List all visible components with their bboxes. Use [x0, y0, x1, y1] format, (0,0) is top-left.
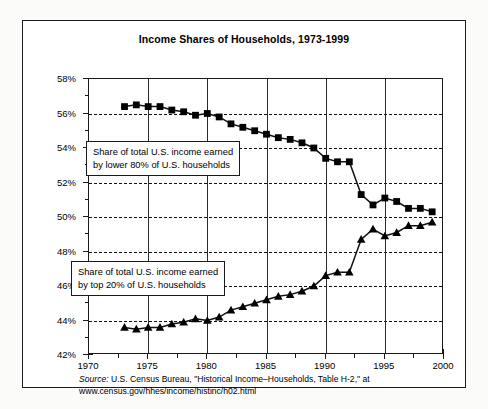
source-note-line2: www.census.gov/hhes/income/histinc/h02.h… — [79, 385, 459, 397]
annotation-top-20-line2: by top 20% of U.S. households — [78, 279, 218, 292]
marker-square — [405, 205, 412, 212]
marker-triangle — [120, 323, 129, 331]
chart-title: Income Shares of Households, 1973-1999 — [23, 33, 465, 45]
marker-square — [121, 103, 128, 110]
source-text: U.S. Census Bureau, "Historical Income–H… — [109, 374, 370, 384]
x-tick-label: 1990 — [314, 360, 335, 371]
y-axis: 42%44%46%48%50%52%54%56%58% — [23, 78, 88, 354]
marker-square — [263, 131, 270, 138]
marker-triangle — [191, 314, 200, 322]
x-tick-label: 1995 — [373, 360, 394, 371]
marker-square — [168, 107, 175, 114]
annotation-lower-80-line2: by lower 80% of U.S. households — [93, 159, 233, 172]
x-tick-label: 1975 — [137, 360, 158, 371]
annotation-top-20-line1: Share of total U.S. income earned — [78, 266, 218, 279]
source-note-line1: Source: U.S. Census Bureau, "Historical … — [79, 373, 459, 385]
marker-square — [346, 158, 353, 165]
marker-square — [180, 108, 187, 115]
marker-square — [417, 205, 424, 212]
source-label: Source: — [79, 374, 109, 384]
marker-square — [310, 145, 317, 152]
x-tick-label: 2000 — [432, 360, 453, 371]
marker-square — [299, 139, 306, 146]
y-tick-label: 42% — [57, 349, 76, 360]
marker-square — [275, 134, 282, 141]
marker-square — [204, 110, 211, 117]
marker-square — [334, 158, 341, 165]
marker-square — [287, 136, 294, 143]
marker-square — [370, 202, 377, 209]
y-tick-label: 52% — [57, 176, 76, 187]
marker-square — [228, 120, 235, 127]
annotation-lower-80-line1: Share of total U.S. income earned — [93, 146, 233, 159]
marker-square — [393, 198, 400, 205]
marker-square — [358, 191, 365, 198]
marker-square — [251, 127, 258, 134]
x-tick-label: 1970 — [77, 360, 98, 371]
marker-square — [192, 112, 199, 119]
y-tick-label: 44% — [57, 314, 76, 325]
y-tick-label: 48% — [57, 245, 76, 256]
marker-square — [145, 103, 152, 110]
y-tick-label: 58% — [57, 73, 76, 84]
marker-square — [322, 155, 329, 162]
plot-inner — [89, 79, 442, 353]
x-tick-label: 1985 — [255, 360, 276, 371]
annotation-top-20: Share of total U.S. income earned by top… — [71, 261, 225, 296]
marker-square — [216, 114, 223, 121]
marker-triangle — [392, 228, 401, 236]
annotation-lower-80: Share of total U.S. income earned by low… — [86, 141, 240, 176]
marker-square — [133, 101, 140, 108]
series-layer — [89, 79, 444, 355]
marker-square — [239, 124, 246, 131]
y-tick-label: 54% — [57, 142, 76, 153]
chart-page: Income Shares of Households, 1973-1999 4… — [0, 0, 488, 409]
marker-triangle — [298, 287, 307, 295]
figure-frame: Income Shares of Households, 1973-1999 4… — [22, 20, 466, 388]
marker-triangle — [215, 313, 224, 321]
marker-triangle — [428, 218, 437, 226]
plot-area — [88, 78, 443, 354]
y-tick-label: 50% — [57, 211, 76, 222]
x-tick-label: 1980 — [196, 360, 217, 371]
marker-square — [381, 195, 388, 202]
y-tick-label: 56% — [57, 107, 76, 118]
marker-square — [429, 208, 436, 215]
source-note: Source: U.S. Census Bureau, "Historical … — [79, 373, 459, 398]
marker-square — [157, 103, 164, 110]
marker-triangle — [369, 225, 378, 233]
